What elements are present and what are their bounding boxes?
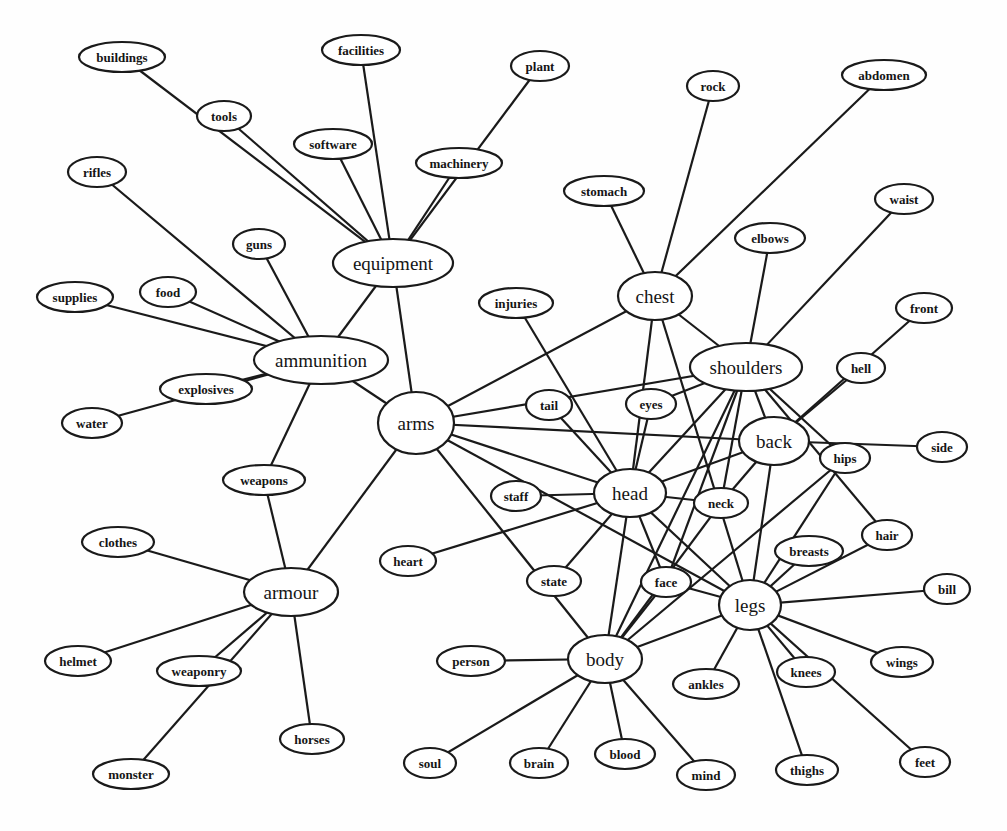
node-explosives: explosives [160,374,252,404]
node-label: shoulders [710,357,783,378]
node-soul: soul [404,748,456,778]
node-label: supplies [53,290,98,305]
node-label: wings [886,655,918,670]
node-label: food [156,285,181,300]
node-label: front [910,301,939,316]
node-label: explosives [178,382,234,397]
node-legs: legs [719,580,781,630]
node-helmet: helmet [45,646,111,676]
node-label: legs [735,595,766,616]
node-monster: monster [93,759,169,789]
node-label: side [931,440,953,455]
node-label: software [309,137,357,152]
node-back: back [739,417,809,465]
node-weapons: weapons [223,465,305,495]
node-label: head [612,483,648,504]
node-facilities: facilities [322,35,400,65]
node-blood: blood [595,739,655,769]
node-label: equipment [353,253,434,274]
node-label: knees [790,665,821,680]
node-person: person [437,646,505,676]
node-weaponry: weaponry [157,656,241,686]
node-label: plant [526,59,556,74]
node-bill: bill [924,574,970,604]
node-label: neck [708,496,735,511]
node-guns: guns [233,229,285,259]
node-stomach: stomach [564,176,644,206]
node-wings: wings [871,647,933,677]
node-label: abdomen [858,68,910,83]
node-label: person [452,654,490,669]
node-label: hair [875,528,898,543]
node-label: stomach [581,184,628,199]
node-head: head [594,469,666,517]
node-side: side [917,432,967,462]
node-shoulders: shoulders [690,343,802,391]
node-machinery: machinery [416,148,502,178]
node-water: water [62,408,122,438]
node-hell: hell [837,353,885,383]
node-tools: tools [197,101,251,131]
nodes-layer: equipmentammunitionarmsarmourchestshould… [37,35,970,790]
node-eyes: eyes [626,389,676,419]
node-label: weaponry [172,664,227,679]
node-label: blood [609,747,641,762]
node-injuries: injuries [479,288,553,318]
node-label: machinery [429,156,489,171]
node-label: helmet [59,654,97,669]
node-label: facilities [338,43,384,58]
node-food: food [140,277,196,307]
node-ammunition: ammunition [254,336,388,384]
node-tail: tail [526,390,572,420]
node-waist: waist [875,184,933,214]
node-label: face [655,575,678,590]
node-label: ankles [688,677,723,692]
node-label: rock [700,79,726,94]
node-label: eyes [639,397,662,412]
node-buildings: buildings [79,42,165,72]
node-label: arms [398,413,435,434]
node-ankles: ankles [673,669,739,699]
node-label: heart [393,554,423,569]
node-label: chest [635,286,675,307]
node-clothes: clothes [82,527,154,557]
node-state: state [527,566,581,596]
node-label: clothes [99,535,137,550]
node-equipment: equipment [333,239,453,287]
node-label: soul [419,756,442,771]
node-label: monster [108,767,154,782]
node-label: waist [890,192,920,207]
edge-arms-body [416,423,605,659]
node-label: bill [938,582,956,597]
node-brain: brain [510,748,568,778]
node-rifles: rifles [68,157,126,187]
node-feet: feet [900,747,950,777]
node-hair: hair [862,520,912,550]
node-label: hips [833,451,856,466]
node-arms: arms [378,392,454,454]
node-label: brain [524,756,555,771]
node-label: thighs [790,763,824,778]
node-label: mind [692,768,722,783]
edge-chest-rock [655,86,713,296]
node-label: body [586,649,625,670]
node-staff: staff [491,481,541,511]
node-supplies: supplies [37,282,113,312]
node-label: ammunition [275,350,367,371]
node-heart: heart [380,546,436,576]
node-label: rifles [83,165,111,180]
node-label: staff [504,489,529,504]
node-label: horses [294,732,329,747]
node-body: body [568,635,642,683]
node-mind: mind [677,760,735,790]
node-label: state [541,574,567,589]
node-armour: armour [244,568,338,616]
node-plant: plant [511,51,569,81]
node-breasts: breasts [775,536,843,566]
node-label: hell [851,361,872,376]
node-label: armour [264,582,320,603]
node-label: breasts [789,544,828,559]
node-label: weapons [240,473,288,488]
node-elbows: elbows [735,223,805,253]
node-front: front [896,293,952,323]
